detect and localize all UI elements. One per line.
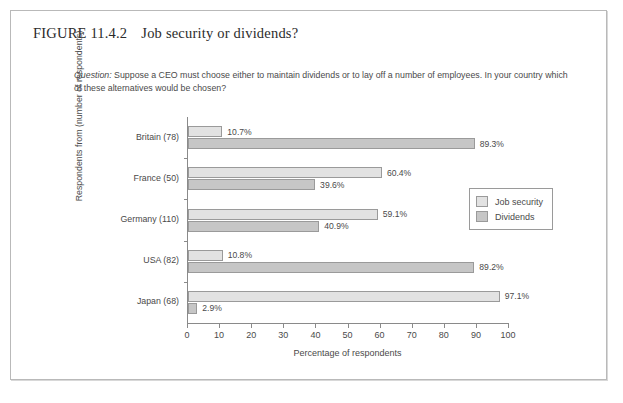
bar-chart: Respondents from (number of respondents)… [11,11,608,381]
bar[interactable] [188,126,222,137]
bar[interactable] [188,209,378,220]
category-label: Japan (68) [137,296,179,306]
x-axis-tick [380,323,381,328]
category-label: Germany (110) [120,214,179,224]
x-axis-tick [283,323,284,328]
x-axis-tick [219,323,220,328]
bar-value-label: 10.7% [222,127,251,137]
bar-row: 40.9% [188,221,508,232]
plot-area: Britain (78)10.7%89.3%France (50)60.4%39… [187,117,508,323]
x-axis-tick [251,323,252,328]
x-axis-tick [508,323,509,328]
x-axis-tick-label: 50 [342,330,352,340]
x-axis-tick-label: 10 [214,330,224,340]
legend-item[interactable]: Dividends [476,209,543,224]
figure-frame: FIGURE 11.4.2Job security or dividends? … [10,10,607,380]
category-group: Japan (68)97.1%2.9% [188,291,508,314]
x-axis-tick [412,323,413,328]
category-label: France (50) [134,173,179,183]
x-axis-tick [444,323,445,328]
category-label: USA (82) [143,255,179,265]
bar-row: 39.6% [188,179,508,190]
bar-row: 89.2% [188,262,508,273]
x-axis-tick-label: 0 [184,330,189,340]
bar-value-label: 60.4% [382,168,411,178]
bar[interactable] [188,291,500,302]
legend-item[interactable]: Job security [476,194,543,209]
x-axis-title: Percentage of respondents [187,348,508,358]
x-axis-tick-label: 20 [246,330,256,340]
legend-swatch [476,196,488,207]
bar-row: 59.1% [188,209,508,220]
bar-value-label: 39.6% [315,180,344,190]
legend-swatch [476,211,488,222]
x-axis-tick-label: 40 [310,330,320,340]
bar-row: 2.9% [188,303,508,314]
x-axis-tick-label: 70 [407,330,417,340]
x-axis-tick-label: 60 [375,330,385,340]
bar-row: 60.4% [188,167,508,178]
bar[interactable] [188,221,319,232]
x-axis-tick [476,323,477,328]
chart-legend: Job securityDividends [469,188,553,230]
category-tick [184,241,188,242]
legend-label: Dividends [495,212,535,222]
bar[interactable] [188,303,197,314]
category-group: Germany (110)59.1%40.9% [188,209,508,232]
x-axis-tick-label: 30 [278,330,288,340]
x-axis-tick-label: 100 [500,330,515,340]
bar-value-label: 59.1% [378,209,407,219]
category-label: Britain (78) [136,132,179,142]
bar[interactable] [188,250,223,261]
bar-value-label: 89.3% [475,139,504,149]
bar-value-label: 2.9% [197,303,222,313]
bar[interactable] [188,167,382,178]
category-tick [184,158,188,159]
category-group: Britain (78)10.7%89.3% [188,126,508,149]
bar-row: 89.3% [188,138,508,149]
x-axis-tick-label: 80 [439,330,449,340]
bar-row: 97.1% [188,291,508,302]
bar[interactable] [188,262,474,273]
bar-value-label: 89.2% [474,262,503,272]
bar-row: 10.7% [188,126,508,137]
category-group: USA (82)10.8%89.2% [188,250,508,273]
x-axis-tick-label: 90 [471,330,481,340]
y-axis-title: Respondents from (number of respondents) [74,10,84,222]
bar-row: 10.8% [188,250,508,261]
category-group: France (50)60.4%39.6% [188,167,508,190]
x-axis-tick [187,323,188,328]
bar-value-label: 40.9% [319,221,348,231]
bar-value-label: 97.1% [500,291,529,301]
x-axis: 0102030405060708090100 [187,323,508,324]
bar-value-label: 10.8% [223,250,252,260]
category-tick [184,282,188,283]
x-axis-tick [315,323,316,328]
legend-label: Job security [495,197,543,207]
category-tick [184,199,188,200]
bar[interactable] [188,138,475,149]
x-axis-tick [348,323,349,328]
bar[interactable] [188,179,315,190]
